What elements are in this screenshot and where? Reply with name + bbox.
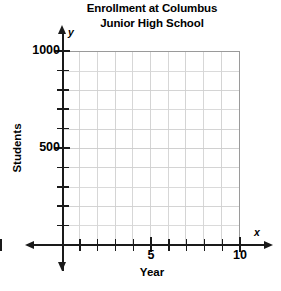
plot-area xyxy=(62,51,240,245)
y-tick-900 xyxy=(57,70,69,72)
chart-title: Enrollment at Columbus Junior High Schoo… xyxy=(62,1,242,31)
x-tick-1 xyxy=(79,239,81,251)
x-tick-label-10: 10 xyxy=(220,249,260,261)
grid-lines xyxy=(62,52,239,245)
y-tick-200 xyxy=(57,205,69,207)
chart-title-line-2: Junior High School xyxy=(62,16,242,31)
y-axis-letter: y xyxy=(68,26,74,38)
x-axis-title: Year xyxy=(112,266,192,278)
y-tick-300 xyxy=(57,186,69,188)
x-axis-letter: x xyxy=(254,226,260,238)
x-tick-2b xyxy=(97,239,99,251)
y-tick-600 xyxy=(57,128,69,130)
x-axis-arrow-right-icon xyxy=(264,241,273,249)
x-axis-line xyxy=(33,244,265,246)
y-tick-800 xyxy=(57,89,69,91)
y-axis-arrow-up-icon xyxy=(58,25,66,34)
y-axis-title: Students xyxy=(11,113,23,183)
y-tick-100 xyxy=(57,225,69,227)
x-tick-8 xyxy=(204,239,206,251)
y-axis-arrow-down-icon xyxy=(58,262,66,271)
y-tick-label-1000: 1000 xyxy=(32,44,60,56)
chart-title-line-1: Enrollment at Columbus xyxy=(62,1,242,16)
chart-figure: Enrollment at Columbus Junior High Schoo… xyxy=(0,0,281,291)
x-axis-arrow-left-icon xyxy=(25,241,34,249)
x-tick-7 xyxy=(186,239,188,251)
y-tick-label-500: 500 xyxy=(39,141,60,153)
y-tick-400 xyxy=(57,167,69,169)
x-tick-label-5: 5 xyxy=(131,249,171,261)
x-tick-3 xyxy=(115,239,117,251)
y-tick-700 xyxy=(57,108,69,110)
x-tick-2 xyxy=(0,239,2,251)
